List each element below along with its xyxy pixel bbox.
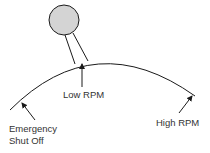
- low-rpm-label: Low RPM: [63, 89, 104, 100]
- emergency-label-line1: Emergency: [9, 123, 57, 134]
- throttle-arc: [10, 64, 195, 110]
- high-rpm-arrow: [179, 96, 192, 113]
- lever-stick: [65, 33, 88, 64]
- lever-knob: [49, 5, 79, 35]
- high-rpm-label: High RPM: [156, 117, 199, 128]
- emergency-arrow: [22, 103, 35, 120]
- emergency-label-line2: Shut Off: [9, 135, 44, 146]
- throttle-diagram: Low RPM High RPM Emergency Shut Off: [0, 0, 210, 153]
